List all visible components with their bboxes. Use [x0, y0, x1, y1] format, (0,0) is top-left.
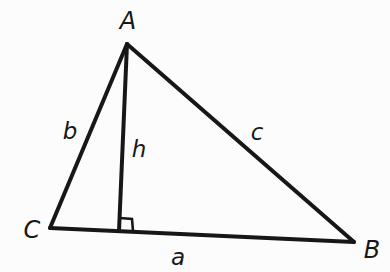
- triangle-graphic: [0, 0, 390, 272]
- vertex-label-b: B: [364, 238, 380, 262]
- triangle-diagram: A B C a b c h: [0, 0, 390, 272]
- vertex-label-a: A: [120, 9, 136, 33]
- side-label-a: a: [171, 246, 185, 269]
- altitude-label-h: h: [132, 138, 147, 161]
- side-label-b: b: [63, 120, 78, 143]
- side-label-c: c: [251, 121, 264, 144]
- vertex-label-c: C: [24, 218, 41, 242]
- diagram-background: [0, 0, 390, 272]
